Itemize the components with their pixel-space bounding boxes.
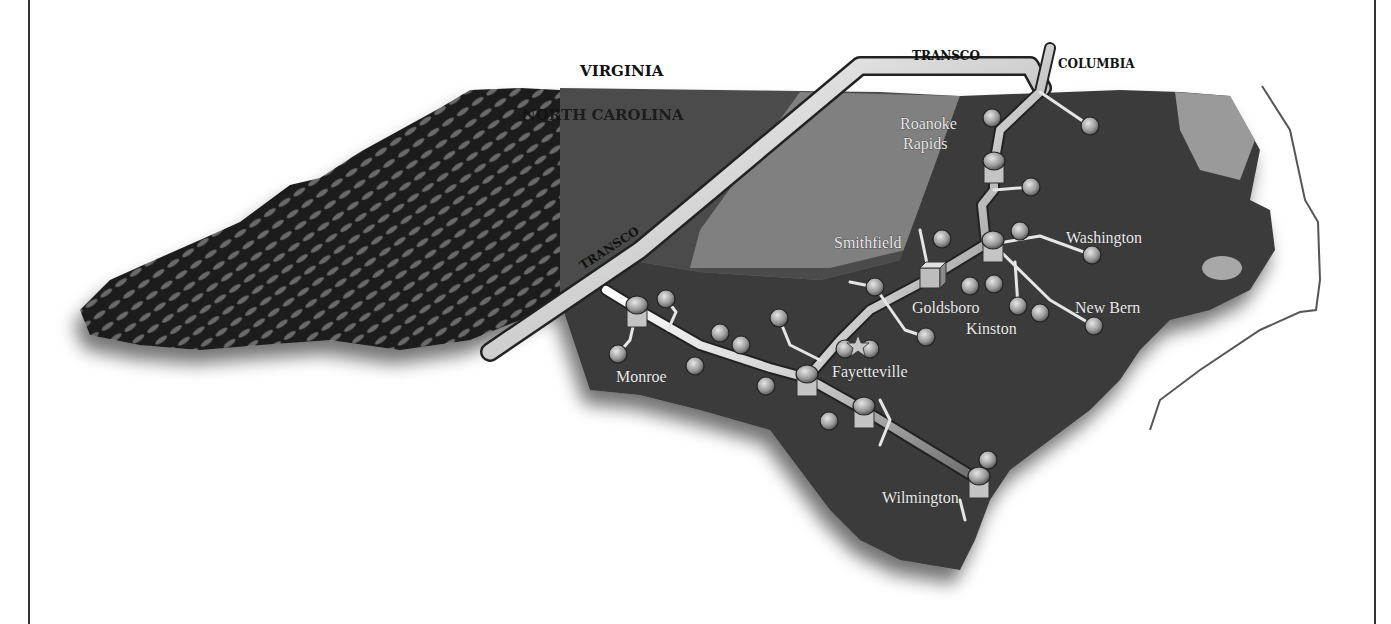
label-washington: Washington	[1066, 229, 1142, 247]
compressor-station-icon	[796, 365, 818, 396]
delivery-node-icon	[1031, 304, 1049, 322]
junction-box	[920, 262, 946, 288]
delivery-node-icon	[1085, 317, 1103, 335]
label-rapids: Rapids	[903, 135, 947, 153]
label-transco-top: TRANSCO	[912, 49, 980, 63]
delivery-node-icon	[732, 336, 750, 354]
delivery-node-icon	[770, 309, 788, 327]
delivery-node-icon	[757, 377, 775, 395]
delivery-node-icon	[917, 328, 935, 346]
delivery-node-icon	[961, 277, 979, 295]
delivery-node-icon	[1081, 117, 1099, 135]
label-monroe: Monroe	[616, 368, 667, 385]
delivery-node-icon	[983, 109, 1001, 127]
mountain-region	[80, 88, 560, 350]
nc-pipeline-map: VIRGINIA NORTH CAROLINA TRANSCO COLUMBIA…	[0, 0, 1391, 624]
label-north-carolina: NORTH CAROLINA	[522, 106, 684, 124]
compressor-station-icon	[982, 231, 1004, 262]
label-virginia: VIRGINIA	[579, 62, 664, 80]
label-kinston: Kinston	[966, 320, 1017, 337]
delivery-node-icon	[1009, 297, 1027, 315]
label-roanoke: Roanoke	[900, 115, 957, 132]
label-new-bern: New Bern	[1075, 299, 1140, 316]
delivery-node-icon	[686, 357, 704, 375]
label-wilmington: Wilmington	[882, 489, 959, 507]
compressor-station-icon	[968, 467, 990, 498]
label-columbia: COLUMBIA	[1058, 57, 1135, 71]
label-goldsboro: Goldsboro	[912, 299, 980, 316]
compressor-station-icon	[626, 296, 648, 327]
label-smithfield: Smithfield	[834, 234, 902, 251]
delivery-node-icon	[979, 451, 997, 469]
compressor-station-icon	[983, 152, 1005, 183]
delivery-node-icon	[657, 290, 675, 308]
delivery-node-icon	[711, 324, 729, 342]
delivery-node-icon	[1022, 178, 1040, 196]
compressor-station-icon	[853, 397, 875, 428]
lake	[1202, 256, 1242, 280]
delivery-node-icon	[985, 275, 1003, 293]
delivery-node-icon	[609, 345, 627, 363]
delivery-node-icon	[1083, 246, 1101, 264]
delivery-node-icon	[933, 230, 951, 248]
delivery-node-icon	[1011, 222, 1029, 240]
label-fayetteville: Fayetteville	[832, 363, 908, 381]
delivery-node-icon	[820, 412, 838, 430]
delivery-node-icon	[866, 278, 884, 296]
